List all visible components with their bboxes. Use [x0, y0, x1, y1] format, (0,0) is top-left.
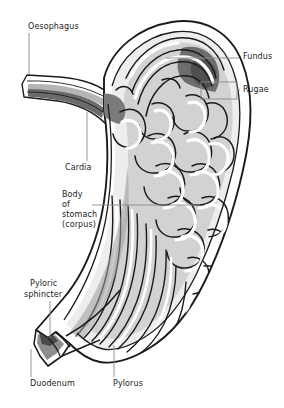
- oesophagus-structure: [22, 75, 113, 124]
- label-body-line-3: stomach: [62, 210, 97, 221]
- label-oesophagus: Oesophagus: [28, 22, 79, 33]
- label-pyloric-line-2: sphincter: [24, 290, 62, 301]
- label-pyloric-line-1: Pyloric: [30, 279, 57, 290]
- label-body-line-2: of: [62, 200, 70, 211]
- label-pylorus: Pylorus: [113, 379, 143, 390]
- stomach-interior-group: [66, 31, 240, 356]
- label-fundus: Fundus: [243, 52, 272, 63]
- label-body-line-1: Body: [62, 190, 83, 201]
- label-duodenum: Duodenum: [30, 379, 75, 390]
- label-body-line-4: (corpus): [62, 220, 96, 231]
- stomach-diagram-svg: [0, 0, 284, 408]
- label-cardia: Cardia: [65, 163, 91, 174]
- label-rugae: Rugae: [243, 85, 269, 96]
- stomach-anatomy-figure: Oesophagus Cardia Fundus Rugae Body of s…: [0, 0, 284, 408]
